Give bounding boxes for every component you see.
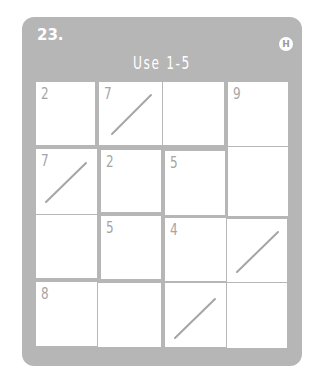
grid-cell-r2c2[interactable]: 2 (101, 150, 161, 212)
slash-mark-icon (99, 82, 162, 145)
grid-cell-r2c4[interactable] (228, 147, 288, 216)
cage-clue: 4 (170, 221, 178, 239)
grid-cell-r1c4[interactable]: 9 (228, 82, 288, 146)
cage-clue: 2 (106, 153, 114, 171)
cage-clue: 2 (41, 85, 49, 103)
slash-mark-icon (227, 219, 287, 282)
grid-cell-r1c3[interactable] (163, 82, 224, 145)
puzzle-number: 23. (37, 26, 64, 44)
cage-clue: 8 (41, 285, 49, 303)
grid-cell-r4c3[interactable] (165, 283, 226, 347)
grid-cell-r3c4[interactable] (227, 219, 287, 282)
cage-clue: 5 (170, 154, 178, 172)
grid-cell-r3c3[interactable]: 4 (165, 218, 226, 281)
puzzle-grid: 2 7 9 7 2 5 5 (36, 82, 288, 352)
grid-cell-r4c1[interactable]: 8 (36, 282, 97, 346)
grid-cell-r3c2[interactable]: 5 (101, 216, 161, 279)
grid-cell-r4c4[interactable] (227, 283, 287, 348)
grid-cell-r4c2[interactable] (98, 283, 161, 347)
grid-cell-r1c1[interactable]: 2 (36, 82, 95, 145)
grid-cell-r3c1[interactable] (36, 215, 97, 278)
grid-cell-r1c2[interactable]: 7 (99, 82, 162, 145)
puzzle-instruction: Use 1-5 (50, 53, 274, 73)
cage-clue: 5 (106, 219, 114, 237)
slash-mark-icon (36, 149, 97, 214)
cage-clue: 9 (233, 85, 241, 103)
grid-cell-r2c1[interactable]: 7 (36, 149, 97, 214)
grid-cell-r2c3[interactable]: 5 (165, 151, 225, 215)
slash-mark-icon (165, 283, 226, 347)
difficulty-badge-icon: H (279, 37, 293, 51)
puzzle-card: 23. H Use 1-5 2 7 9 7 2 5 (22, 17, 302, 366)
